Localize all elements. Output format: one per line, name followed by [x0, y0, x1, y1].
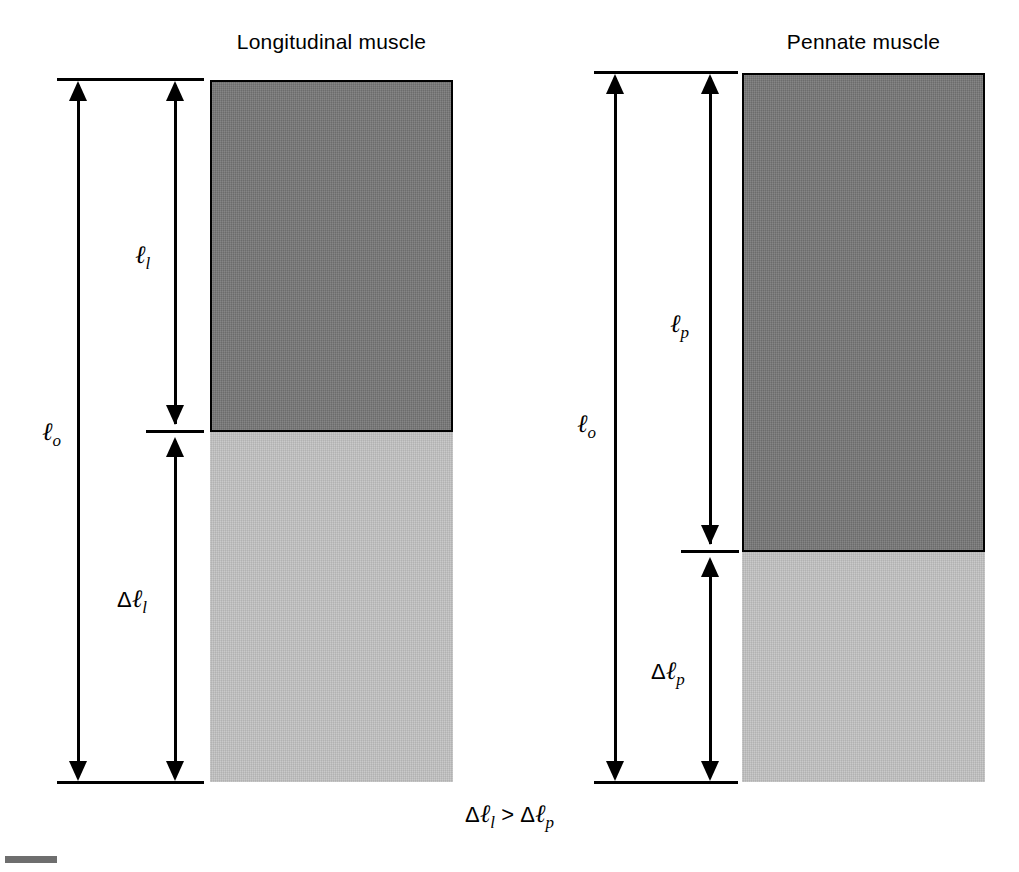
pennate-lp-axis: [709, 78, 712, 544]
lp-subscript: p: [680, 323, 689, 342]
pennate-dlp-arrowhead-bottom: [701, 761, 719, 781]
pen-lo-subscript: o: [587, 423, 596, 442]
relation-right-delta: Δ: [520, 802, 535, 827]
longitudinal-dll-arrowhead-bottom: [166, 761, 184, 781]
dll-subscript: l: [142, 598, 147, 617]
pennate-lo-axis: [614, 78, 617, 775]
ll-ell-glyph: ℓ: [135, 241, 145, 268]
longitudinal-bottom-tick: [57, 781, 204, 784]
dlp-delta-glyph: Δ: [651, 659, 666, 684]
lp-ell-glyph: ℓ: [670, 310, 680, 337]
pen-lo-ell-glyph: ℓ: [577, 410, 587, 437]
panel-title-longitudinal: Longitudinal muscle: [210, 30, 453, 54]
pennate-lp-arrowhead-bottom: [701, 525, 719, 545]
relation-left-subscript: l: [490, 813, 495, 832]
longitudinal-contracted-muscle-segment: [210, 80, 453, 432]
longitudinal-lo-arrowhead-bottom: [69, 761, 87, 781]
longitudinal-lo-axis: [77, 85, 80, 775]
relation-caption: Δℓl > Δℓp: [0, 800, 1019, 833]
longitudinal-length-change-label: Δℓl: [117, 585, 147, 618]
lo-ell-glyph: ℓ: [42, 418, 52, 445]
longitudinal-fiber-length-label: ℓl: [135, 241, 150, 274]
pennate-contracted-muscle-segment: [742, 73, 985, 552]
longitudinal-mid-tick: [146, 430, 204, 433]
pennate-shortening-excursion-segment: [742, 552, 985, 782]
pennate-mid-tick: [681, 550, 739, 553]
longitudinal-resting-length-label: ℓo: [42, 418, 61, 451]
longitudinal-ll-axis: [174, 85, 177, 424]
panel-title-pennate: Pennate muscle: [742, 30, 985, 54]
relation-operator: >: [501, 802, 514, 827]
lo-subscript: o: [52, 431, 61, 450]
ll-subscript: l: [145, 254, 150, 273]
relation-right-subscript: p: [545, 813, 554, 832]
relation-left-delta: Δ: [465, 802, 480, 827]
pennate-resting-length-label: ℓo: [577, 410, 596, 443]
dlp-subscript: p: [676, 670, 685, 689]
longitudinal-shortening-excursion-segment: [210, 432, 453, 782]
dll-delta-glyph: Δ: [117, 587, 132, 612]
dlp-ell-glyph: ℓ: [666, 657, 676, 684]
relation-right-ell: ℓ: [535, 800, 545, 827]
pennate-dlp-axis: [709, 561, 712, 775]
longitudinal-ll-arrowhead-bottom: [166, 405, 184, 425]
pennate-bottom-tick: [594, 781, 738, 784]
muscle-architecture-figure: Longitudinal muscle ℓo ℓl Δℓl Pennate mu…: [0, 0, 1019, 872]
pennate-length-change-label: Δℓp: [651, 657, 685, 690]
footer-rule: [5, 856, 57, 863]
pennate-fiber-length-label: ℓp: [670, 310, 689, 343]
pennate-lo-arrowhead-bottom: [606, 761, 624, 781]
dll-ell-glyph: ℓ: [132, 585, 142, 612]
relation-left-ell: ℓ: [480, 800, 490, 827]
longitudinal-dll-axis: [174, 441, 177, 775]
